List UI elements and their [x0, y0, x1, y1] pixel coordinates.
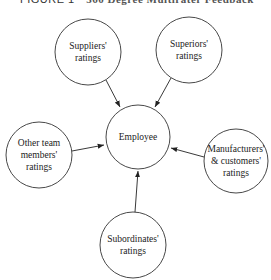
edge-suppliers-employee	[106, 80, 120, 107]
subordinates-label: Subordinates' ratings	[103, 233, 163, 257]
edge-other-team-employee	[72, 145, 104, 151]
employee-node: Employee	[106, 105, 170, 169]
suppliers-node: Suppliers' ratings	[62, 26, 114, 78]
edge-subordinates-employee	[135, 171, 138, 212]
other-team-label: Other team members' ratings	[11, 137, 67, 173]
suppliers-label: Suppliers' ratings	[62, 40, 114, 64]
employee-label: Employee	[119, 131, 158, 143]
edge-manufacturers-employee	[171, 148, 204, 157]
edge-superiors-employee	[155, 78, 171, 107]
superiors-label: Superiors' ratings	[163, 38, 215, 62]
other-team-node: Other team members' ratings	[11, 127, 67, 183]
manufacturers-label: Manufacturers' & customers' ratings	[204, 143, 268, 179]
superiors-node: Superiors' ratings	[163, 24, 215, 76]
subordinates-node: Subordinates' ratings	[103, 219, 163, 271]
manufacturers-node: Manufacturers' & customers' ratings	[204, 133, 268, 189]
